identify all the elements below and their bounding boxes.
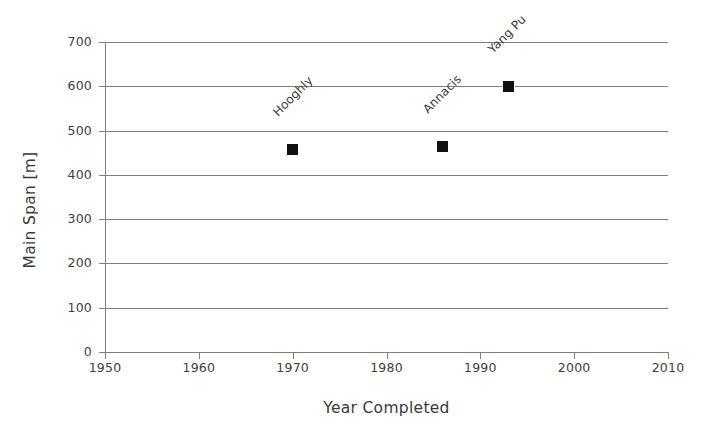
x-tick-label-1950: 1950 — [75, 360, 135, 375]
gridline-y-200 — [105, 263, 668, 264]
x-tick-mark-1970 — [293, 352, 294, 359]
x-tick-label-1980: 1980 — [357, 360, 417, 375]
y-tick-mark-100 — [99, 308, 106, 309]
y-tick-label-300: 300 — [46, 211, 92, 226]
x-tick-label-2010: 2010 — [638, 360, 698, 375]
x-tick-label-1960: 1960 — [169, 360, 229, 375]
y-tick-label-500: 500 — [46, 123, 92, 138]
gridline-y-600 — [105, 86, 668, 87]
x-tick-label-1970: 1970 — [263, 360, 323, 375]
x-axis-title: Year Completed — [105, 399, 668, 417]
data-point-marker — [286, 143, 299, 156]
gridline-y-500 — [105, 131, 668, 132]
x-tick-mark-1960 — [199, 352, 200, 359]
y-tick-label-200: 200 — [46, 255, 92, 270]
y-axis-title-text: Main Span [m] — [21, 152, 39, 269]
y-tick-label-600: 600 — [46, 78, 92, 93]
x-tick-mark-2000 — [574, 352, 575, 359]
x-tick-mark-1990 — [480, 352, 481, 359]
scatter-chart-figure: Main Span [m] 01002003004005006007001950… — [0, 0, 717, 439]
y-tick-mark-600 — [99, 86, 106, 87]
gridline-y-400 — [105, 175, 668, 176]
x-tick-mark-1980 — [387, 352, 388, 359]
gridline-y-300 — [105, 219, 668, 220]
y-tick-mark-200 — [99, 263, 106, 264]
x-tick-mark-2010 — [668, 352, 669, 359]
y-tick-label-400: 400 — [46, 167, 92, 182]
gridline-y-700 — [105, 42, 668, 43]
y-tick-label-100: 100 — [46, 300, 92, 315]
y-tick-label-0: 0 — [46, 344, 92, 359]
gridline-y-100 — [105, 308, 668, 309]
y-tick-mark-300 — [99, 219, 106, 220]
x-tick-label-2000: 2000 — [544, 360, 604, 375]
y-tick-label-700: 700 — [46, 34, 92, 49]
y-tick-mark-700 — [99, 42, 106, 43]
y-tick-mark-400 — [99, 175, 106, 176]
data-point-marker — [436, 140, 449, 153]
y-axis-title: Main Span [m] — [18, 100, 42, 320]
plot-area — [105, 42, 668, 352]
y-tick-mark-500 — [99, 131, 106, 132]
x-tick-label-1990: 1990 — [450, 360, 510, 375]
data-point-marker — [502, 80, 515, 93]
x-tick-mark-1950 — [105, 352, 106, 359]
